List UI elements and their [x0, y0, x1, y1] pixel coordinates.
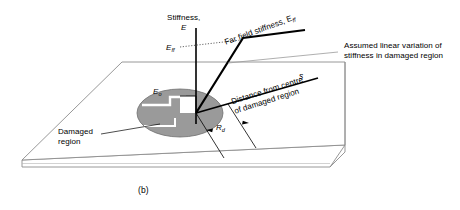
damaged-region-line1: Damaged: [58, 127, 93, 137]
figure-caption: (b): [138, 185, 149, 195]
assumed-variation-line1: Assumed linear variation of: [344, 41, 443, 51]
axis-title-symbol-e: E: [181, 23, 186, 33]
axis-title-stiffness: Stiffness,: [167, 13, 200, 23]
e-o-subscript: o: [158, 91, 161, 97]
annotation-leader-line: [228, 52, 338, 63]
damaged-region-line2: region: [58, 137, 93, 147]
e-ff-subscript: ff: [171, 47, 174, 53]
e-ff-axis-label: Eff: [166, 43, 175, 53]
stiffness-damage-diagram: [0, 0, 460, 210]
damage-centre-step: [180, 96, 196, 113]
damaged-region-label: Damaged region: [58, 127, 93, 147]
e-o-label: Eo: [153, 87, 162, 97]
assumed-variation-annotation: Assumed linear variation of stiffness in…: [344, 41, 443, 61]
figure-panel: Stiffness, E Eff Eo Far field stiffness,…: [0, 0, 460, 210]
axis-title-line1: Stiffness,: [167, 13, 200, 22]
assumed-variation-line2: stiffness in damaged region: [344, 51, 443, 61]
rd-symbol: R: [216, 123, 222, 132]
rd-subscript: d: [222, 127, 225, 133]
rd-label: Rd: [216, 123, 225, 133]
